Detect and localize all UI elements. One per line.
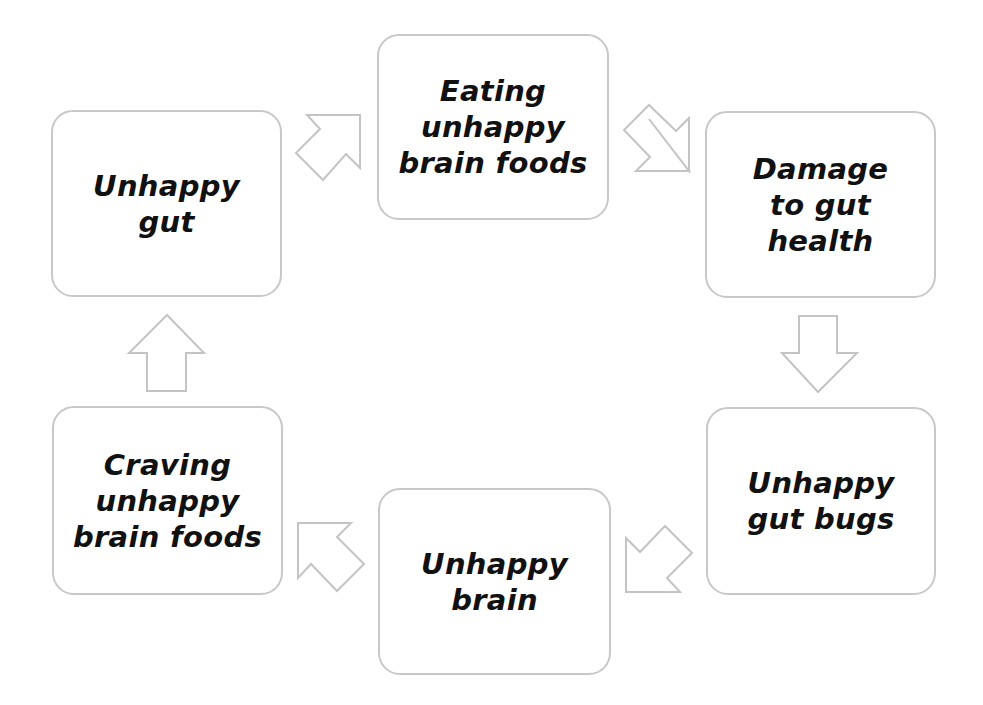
node-label: Unhappy gut: [93, 168, 240, 240]
arrow-up-icon: [129, 315, 204, 391]
node-unhappy-gut: Unhappy gut: [51, 110, 282, 297]
node-damage-to-gut-health: Damage to gut health: [705, 111, 936, 298]
arrow-up-right-icon: [296, 115, 360, 180]
node-label: Craving unhappy brain foods: [73, 447, 262, 555]
arrow-down-left-icon: [626, 526, 692, 592]
node-unhappy-brain: Unhappy brain: [378, 488, 611, 675]
node-eating-unhappy-brain-foods: Eating unhappy brain foods: [377, 34, 609, 220]
node-unhappy-gut-bugs: Unhappy gut bugs: [706, 407, 936, 595]
arrow-down-right-icon: [624, 105, 689, 171]
node-label: Unhappy gut bugs: [747, 465, 894, 537]
node-label: Eating unhappy brain foods: [398, 73, 587, 181]
node-label: Unhappy brain: [421, 546, 568, 618]
arrow-up-left-icon: [298, 523, 364, 591]
node-label: Damage to gut health: [753, 151, 889, 259]
node-craving-unhappy-brain-foods: Craving unhappy brain foods: [52, 406, 283, 595]
arrow-down-icon: [782, 316, 857, 392]
